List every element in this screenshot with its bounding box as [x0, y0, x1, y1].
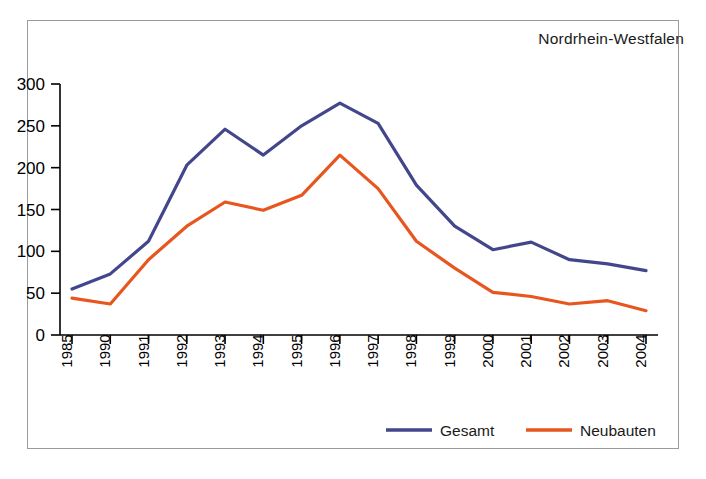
x-tick-label: 2001: [517, 334, 534, 367]
x-tick-label: 2003: [594, 334, 611, 367]
x-tick-label: 1991: [135, 334, 152, 367]
x-tick-label: 1998: [402, 334, 419, 367]
x-tick-label: 1993: [211, 334, 228, 367]
x-tick-label: 1997: [364, 334, 381, 367]
series-line-neubauten: [72, 155, 646, 311]
x-axis: 1985199019911992199319941995199619971998…: [58, 334, 658, 367]
x-tick-label: 1990: [96, 334, 113, 367]
legend-label-gesamt: Gesamt: [440, 422, 495, 439]
x-tick-label: 1992: [173, 334, 190, 367]
series-line-gesamt: [72, 103, 646, 289]
x-tick-label: 2002: [555, 334, 572, 367]
y-tick-label: 0: [36, 326, 45, 345]
legend-label-neubauten: Neubauten: [580, 422, 656, 439]
y-tick-label: 200: [17, 159, 45, 178]
x-tick-label: 2004: [632, 334, 649, 367]
y-axis: 050100150200250300: [17, 75, 60, 345]
x-tick-label: 1995: [288, 334, 305, 367]
x-tick-label: 2000: [479, 334, 496, 367]
x-tick-label: 1999: [441, 334, 458, 367]
line-chart-plot: 050100150200250300 198519901991199219931…: [0, 0, 706, 479]
y-tick-label: 50: [26, 284, 45, 303]
x-tick-label: 1994: [249, 334, 266, 367]
y-tick-label: 250: [17, 117, 45, 136]
x-tick-label: 1985: [58, 334, 75, 367]
y-tick-label: 300: [17, 75, 45, 94]
x-tick-label: 1996: [326, 334, 343, 367]
chart-legend: GesamtNeubauten: [386, 422, 656, 439]
y-tick-label: 150: [17, 201, 45, 220]
y-tick-label: 100: [17, 242, 45, 261]
figure-container: Nordrhein-Westfalen 050100150200250300 1…: [0, 0, 706, 479]
series-lines: [72, 103, 646, 311]
